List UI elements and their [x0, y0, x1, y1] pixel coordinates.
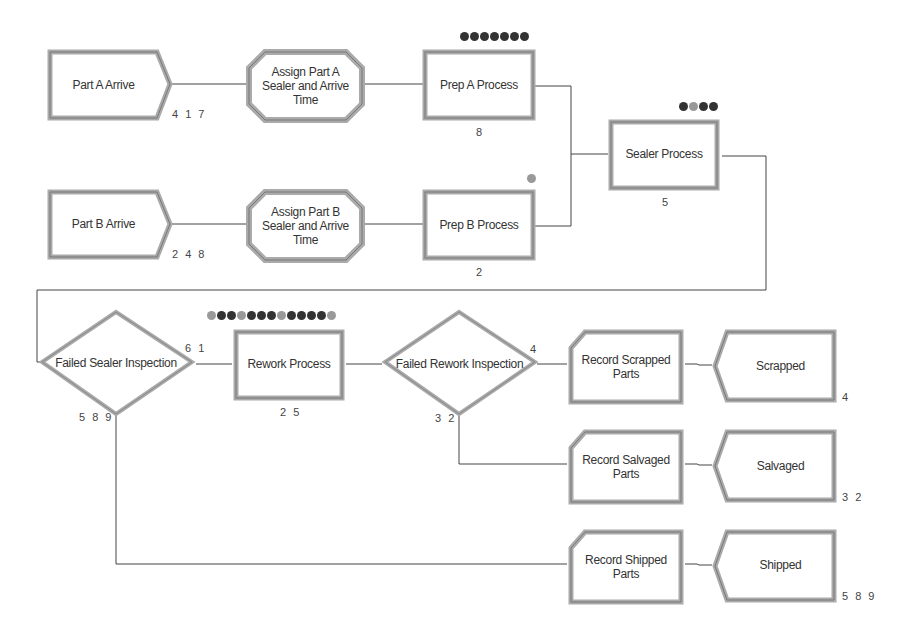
record-scrapped-line-2: Parts	[571, 367, 681, 381]
assign-part-a-line-2: Sealer and Arrive	[249, 79, 362, 93]
prep-a-queue	[460, 32, 529, 41]
rework-queue	[207, 311, 336, 320]
assign-part-a-line-3: Time	[249, 93, 362, 107]
sealer-queue	[679, 102, 718, 111]
queue-entity-icon	[327, 311, 336, 320]
queue-entity-icon	[307, 311, 316, 320]
shipped-count: 5 8 9	[842, 590, 876, 602]
queue-entity-icon	[689, 102, 698, 111]
sealer-process-label: Sealer Process	[611, 147, 717, 161]
prep-a-process-label: Prep A Process	[425, 78, 533, 92]
queue-entity-icon	[257, 311, 266, 320]
queue-entity-icon	[277, 311, 286, 320]
flowchart-canvas	[0, 0, 914, 631]
assign-part-a-line-1: Assign Part A	[249, 65, 362, 79]
record-shipped-label: Record Shipped Parts	[571, 553, 681, 581]
failed-sealer-inspection-label: Failed Sealer Inspection	[40, 356, 192, 370]
queue-entity-icon	[679, 102, 688, 111]
edge-failed-sealer-to-shipped[interactable]	[116, 414, 567, 564]
queue-entity-icon	[510, 32, 519, 41]
prep-b-queue	[527, 174, 536, 183]
queue-entity-icon	[699, 102, 708, 111]
assign-part-b-line-3: Time	[249, 233, 362, 247]
queue-entity-icon	[217, 311, 226, 320]
edge-failed-rework-to-record-salvaged[interactable]	[459, 414, 567, 464]
prep-b-process-count: 2	[476, 266, 484, 278]
queue-entity-icon	[227, 311, 236, 320]
salvaged-label: Salvaged	[727, 459, 834, 473]
shipped-label: Shipped	[727, 558, 834, 572]
rework-process-label: Rework Process	[236, 357, 342, 371]
record-scrapped-label: Record Scrapped Parts	[571, 353, 681, 381]
part-a-arrive-label: Part A Arrive	[50, 78, 157, 92]
edge-prep-a-to-sealer[interactable]	[535, 86, 608, 154]
sealer-process-count: 5	[662, 196, 670, 208]
failed-rework-inspection-label: Failed Rework Inspection	[382, 357, 537, 371]
queue-entity-icon	[527, 174, 536, 183]
record-salvaged-line-1: Record Salvaged	[571, 453, 681, 467]
edge-prep-b-to-sealer[interactable]	[535, 154, 571, 226]
prep-b-process-label: Prep B Process	[425, 218, 533, 232]
edge-record-shipped-to-shipped[interactable]	[685, 564, 712, 565]
edge-record-salvaged-to-salvaged[interactable]	[685, 464, 712, 465]
assign-part-a-label: Assign Part A Sealer and Arrive Time	[249, 65, 362, 107]
queue-entity-icon	[317, 311, 326, 320]
record-scrapped-line-1: Record Scrapped	[571, 353, 681, 367]
queue-entity-icon	[267, 311, 276, 320]
scrapped-label: Scrapped	[727, 359, 834, 373]
queue-entity-icon	[207, 311, 216, 320]
failed-sealer-false-count: 5 8 9	[79, 411, 113, 423]
salvaged-count: 3 2	[842, 491, 863, 503]
failed-sealer-true-count: 6 1	[185, 342, 206, 354]
record-salvaged-label: Record Salvaged Parts	[571, 453, 681, 481]
record-shipped-line-1: Record Shipped	[571, 553, 681, 567]
queue-entity-icon	[460, 32, 469, 41]
assign-part-b-line-2: Sealer and Arrive	[249, 219, 362, 233]
failed-rework-false-count: 3 2	[435, 412, 456, 424]
part-b-arrive-label: Part B Arrive	[50, 217, 157, 231]
edge-record-scrapped-to-scrapped[interactable]	[685, 364, 712, 365]
queue-entity-icon	[297, 311, 306, 320]
queue-entity-icon	[490, 32, 499, 41]
queue-entity-icon	[709, 102, 718, 111]
queue-entity-icon	[470, 32, 479, 41]
part-b-arrive-count: 2 4 8	[172, 248, 206, 260]
failed-rework-true-count: 4	[530, 343, 538, 355]
record-shipped-line-2: Parts	[571, 567, 681, 581]
record-salvaged-line-2: Parts	[571, 467, 681, 481]
part-a-arrive-count: 4 1 7	[172, 108, 206, 120]
queue-entity-icon	[237, 311, 246, 320]
prep-a-process-count: 8	[476, 126, 484, 138]
assign-part-b-line-1: Assign Part B	[249, 205, 362, 219]
queue-entity-icon	[480, 32, 489, 41]
queue-entity-icon	[520, 32, 529, 41]
scrapped-count: 4	[842, 391, 850, 403]
queue-entity-icon	[287, 311, 296, 320]
assign-part-b-label: Assign Part B Sealer and Arrive Time	[249, 205, 362, 247]
queue-entity-icon	[247, 311, 256, 320]
rework-process-count: 2 5	[280, 406, 301, 418]
queue-entity-icon	[500, 32, 509, 41]
